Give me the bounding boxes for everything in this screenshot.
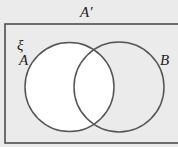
universal-set-label: ξ xyxy=(17,37,24,53)
set-a-label: A xyxy=(18,52,29,68)
set-b-label: B xyxy=(160,52,169,68)
venn-diagram: A′ ξ A B xyxy=(0,0,178,147)
diagram-title: A′ xyxy=(79,4,93,20)
